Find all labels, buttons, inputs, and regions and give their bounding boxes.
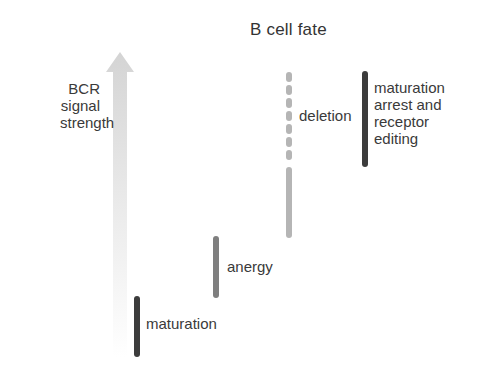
fate-label-maturation: maturation: [146, 315, 217, 332]
axis-label-line: signal: [60, 97, 100, 114]
signal-strength-arrow-icon: [0, 0, 487, 369]
axis-label: BCR signal strength: [60, 80, 100, 131]
maturation-bar: [134, 296, 140, 357]
fate-label-receptor-editing: maturation arrest and receptor editing: [374, 79, 445, 147]
fate-label-anergy: anergy: [227, 258, 273, 275]
axis-label-line: strength: [60, 114, 100, 131]
axis-label-line: BCR: [60, 80, 100, 97]
fate-label-deletion: deletion: [299, 107, 352, 124]
receptor-editing-bar: [362, 71, 368, 167]
anergy-bar: [213, 236, 219, 298]
